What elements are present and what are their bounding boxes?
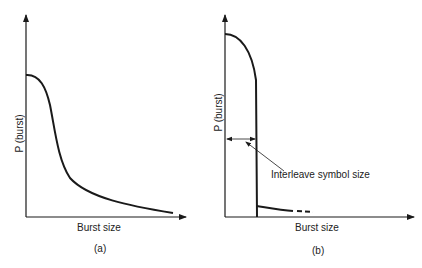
- interleave-annotation: Interleave symbol size: [271, 169, 370, 180]
- residual-tail-dashed-b: [297, 211, 313, 212]
- figure-canvas: [0, 0, 422, 268]
- y-axis-label-b: P (burst): [213, 88, 224, 138]
- annotation-leader-line: [246, 142, 284, 171]
- caption-a: (a): [94, 243, 106, 254]
- panel-a: [26, 15, 186, 217]
- y-axis-label-a: P (burst): [14, 109, 25, 159]
- x-axis-label-a: Burst size: [77, 222, 121, 233]
- distribution-curve-a: [26, 75, 173, 213]
- residual-tail-b: [257, 206, 293, 211]
- caption-b: (b): [312, 245, 324, 256]
- truncated-curve-b: [225, 34, 257, 217]
- x-axis-label-b: Burst size: [295, 222, 339, 233]
- panel-b: [225, 15, 414, 217]
